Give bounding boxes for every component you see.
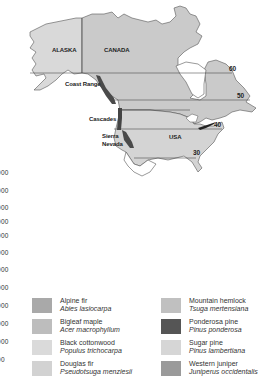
- legend-swatch: [161, 319, 181, 334]
- legend-swatch: [32, 340, 52, 355]
- axis-number: 000: [0, 219, 9, 226]
- legend-latin-name: Pseudotsuga menziesii: [60, 368, 132, 376]
- map-label-coast-range: Coast Range: [65, 81, 101, 87]
- legend-common-name: Bigleaf maple: [60, 318, 102, 326]
- legend-latin-name: Acer macrophyllum: [60, 326, 120, 334]
- legend-swatch: [161, 361, 181, 376]
- legend-common-name: Mountain hemlock: [189, 297, 246, 305]
- alaska-shape: [30, 18, 82, 90]
- map-graphic: [0, 0, 276, 180]
- map-label-usa: USA: [169, 134, 181, 140]
- axis-number: 000: [0, 303, 9, 310]
- axis-number: 000: [0, 250, 9, 257]
- legend-common-name: Ponderosa pine: [189, 318, 238, 326]
- legend-swatch: [161, 340, 181, 355]
- legend-latin-name: Pinus lambertiana: [189, 347, 245, 355]
- legend-swatch: [32, 298, 52, 313]
- axis-number: 000: [0, 267, 9, 274]
- axis-number: 000: [0, 170, 9, 177]
- legend-latin-name: Pinus ponderosa: [189, 326, 242, 334]
- legend-latin-name: Abies lasiocarpa: [60, 305, 111, 313]
- cascades-band: [117, 108, 122, 130]
- legend-common-name: Douglas fir: [60, 360, 93, 368]
- axis-number: 000: [0, 321, 9, 328]
- legend-common-name: Western juniper: [189, 360, 238, 368]
- legend-latin-name: Tsuga mertensiana: [189, 305, 248, 313]
- latitude-label-30: 30: [193, 150, 200, 157]
- latitude-label-60: 60: [229, 66, 236, 73]
- axis-number: 000: [0, 339, 9, 346]
- legend-common-name: Alpine fir: [60, 297, 87, 305]
- axis-number: 000: [0, 285, 9, 292]
- map-label-canada: CANADA: [104, 47, 129, 53]
- legend-latin-name: Juniperus occidentalis: [189, 368, 258, 376]
- map-label-sierra: Sierra: [102, 133, 118, 139]
- legend-latin-name: Populus trichocarpa: [60, 347, 122, 355]
- latitude-label-50: 50: [237, 93, 244, 100]
- legend-swatch: [32, 319, 52, 334]
- axis-number: 00: [0, 357, 5, 364]
- map-label-cascades: Cascades: [89, 116, 116, 122]
- legend-swatch: [32, 361, 52, 376]
- map-label-nevada: Nevada: [102, 141, 123, 147]
- north-america-map: [0, 0, 276, 180]
- axis-number: 000: [0, 233, 9, 240]
- axis-number: 000: [0, 188, 9, 195]
- legend-common-name: Sugar pine: [189, 339, 223, 347]
- map-label-alaska: ALASKA: [52, 47, 76, 53]
- latitude-label-40: 40: [214, 122, 221, 129]
- axis-number: 000: [0, 205, 9, 212]
- legend-swatch: [161, 298, 181, 313]
- legend-common-name: Black cottonwood: [60, 339, 115, 347]
